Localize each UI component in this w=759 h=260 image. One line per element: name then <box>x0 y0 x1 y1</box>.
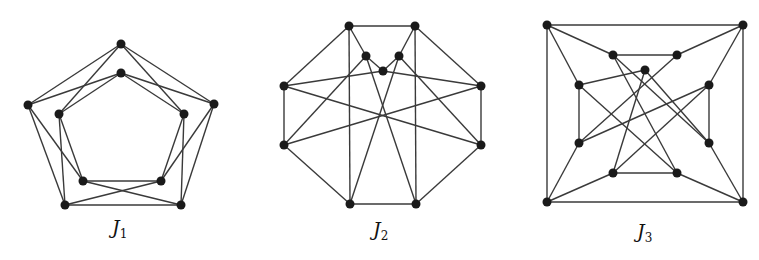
edge-j3-obl-ill <box>547 143 579 202</box>
vertex-j3-obl <box>543 198 552 207</box>
graph-j1-edges <box>28 44 214 205</box>
edge-j2-c-ml <box>284 71 383 86</box>
edge-j2-tr-ir <box>399 26 415 56</box>
vertex-j1-il <box>55 110 64 119</box>
vertex-j2-bl <box>346 200 355 209</box>
graph-j2-label: J2 <box>369 218 388 243</box>
vertex-j2-ll <box>280 141 289 150</box>
vertex-j1-obr <box>177 201 186 210</box>
vertex-j3-itr <box>673 51 682 60</box>
edge-j3-otl-iml <box>547 25 579 85</box>
vertex-j2-c <box>379 67 388 76</box>
vertex-j1-ir <box>180 110 189 119</box>
vertex-j1-ibl <box>79 177 88 186</box>
edge-j1-ir-obr <box>181 114 184 205</box>
vertex-j3-imr <box>705 81 714 90</box>
edge-j2-tl-bl <box>349 26 350 204</box>
edge-j3-c-iml <box>579 70 645 85</box>
graph-j3-label: J3 <box>633 220 652 245</box>
edge-j2-tl-il <box>349 26 366 56</box>
graph-j1: J1 <box>24 40 219 242</box>
edge-j1-it-or <box>121 73 214 104</box>
vertex-j3-ill <box>575 139 584 148</box>
graph-j2: J2 <box>280 22 486 244</box>
vertex-j3-ibr <box>673 169 682 178</box>
vertex-j3-itl <box>609 51 618 60</box>
edge-j3-imr-ill <box>579 85 709 143</box>
vertex-j2-tr <box>411 22 420 31</box>
vertex-j1-ibr <box>157 177 166 186</box>
edge-j3-obr-ilr <box>709 143 743 202</box>
vertex-j2-tl <box>345 22 354 31</box>
vertex-j1-or <box>210 100 219 109</box>
edge-j1-it-ol <box>28 73 121 105</box>
vertex-j3-otr <box>739 21 748 30</box>
vertex-j3-ibl <box>609 169 618 178</box>
vertex-j3-ilr <box>705 139 714 148</box>
vertex-j1-obl <box>61 201 70 210</box>
graph-j3: J3 <box>543 21 748 246</box>
edge-j3-otr-itr <box>677 25 743 55</box>
edge-j3-obr-ibr <box>677 173 743 202</box>
edge-j3-otl-itl <box>547 25 613 55</box>
edge-j2-tr-br <box>415 26 416 204</box>
vertex-j1-it <box>117 69 126 78</box>
edge-j1-ibr-obl <box>65 181 161 205</box>
edge-j3-otr-imr <box>709 25 743 85</box>
graph-figure: J1 J2 J3 <box>0 0 759 260</box>
vertex-j2-il <box>362 52 371 61</box>
edge-j3-obl-ibl <box>547 173 613 202</box>
edge-j2-lr-br <box>416 145 481 204</box>
vertex-j3-obr <box>739 198 748 207</box>
vertex-j2-lr <box>477 141 486 150</box>
edge-j1-or-obr <box>181 104 214 205</box>
vertex-j3-c <box>641 66 650 75</box>
graph-j1-label: J1 <box>108 216 127 241</box>
vertex-j1-ot <box>117 40 126 49</box>
edge-j1-ir-ibr <box>161 114 184 181</box>
vertex-j3-otl <box>543 21 552 30</box>
vertex-j2-ir <box>395 52 404 61</box>
vertex-j2-mr <box>477 82 486 91</box>
vertex-j2-br <box>412 200 421 209</box>
edge-j2-ir-lr <box>399 56 481 145</box>
graph-j1-nodes <box>24 40 219 210</box>
vertex-j3-iml <box>575 81 584 90</box>
graph-j2-edges <box>284 26 481 204</box>
vertex-j2-ml <box>280 82 289 91</box>
vertex-j1-ol <box>24 101 33 110</box>
edge-j2-il-ll <box>284 56 366 145</box>
edge-j2-ll-bl <box>284 145 350 204</box>
edge-j1-ibl-obr <box>83 181 181 205</box>
graph-j3-edges <box>547 25 743 202</box>
